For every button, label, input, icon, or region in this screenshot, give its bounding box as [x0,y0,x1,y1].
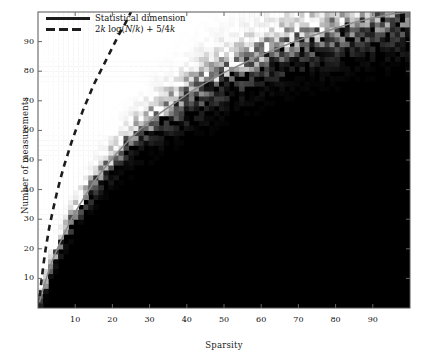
x-tick-label: 50 [216,315,232,324]
legend-dashed-line-swatch [46,25,90,34]
legend-label-statistical-dimension: Statistical dimension [95,13,186,24]
heatmap-cells [38,12,411,309]
formula-k3: k [170,24,175,34]
y-axis-title: Number of measurements [13,96,32,216]
legend-entry-bound-formula: 2k log(N/k) + 5/4k [46,24,186,35]
y-tick-label: 30 [16,214,34,223]
x-tick-label: 10 [67,315,83,324]
y-tick-label: 80 [16,66,34,75]
formula-close: ) + 5 [140,24,161,34]
x-tick-label: 60 [253,315,269,324]
formula-log: log( [106,24,125,34]
y-tick-label: 20 [16,244,34,253]
x-axis-title-text: Sparsity [205,340,242,350]
figure-container: 102030405060708090 102030405060708090 Nu… [0,0,424,352]
y-tick-label: 10 [16,273,34,282]
x-tick-label: 80 [328,315,344,324]
x-tick-label: 30 [142,315,158,324]
x-tick-label: 70 [290,315,306,324]
x-axis-title: Sparsity [164,333,284,352]
x-tick-label: 90 [365,315,381,324]
y-axis-title-text: Number of measurements [20,97,30,214]
x-tick-label: 20 [104,315,120,324]
y-tick-label: 90 [16,37,34,46]
x-tick-label: 40 [179,315,195,324]
phase-transition-plot [0,0,424,352]
legend-entry-statistical-dimension: Statistical dimension [46,13,186,24]
legend-label-bound-formula: 2k log(N/k) + 5/4k [95,24,175,35]
legend-solid-line-swatch [46,14,90,23]
legend: Statistical dimension 2k log(N/k) + 5/4k [46,13,186,35]
